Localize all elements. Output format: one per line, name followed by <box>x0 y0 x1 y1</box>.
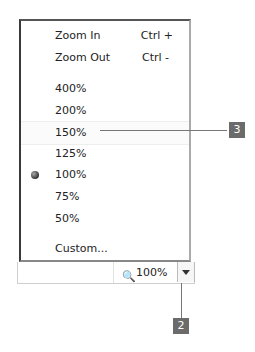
zoom-value: 100% <box>136 262 167 283</box>
radio-bullet-icon <box>31 171 39 179</box>
menu-item-200[interactable]: 200% <box>21 100 189 122</box>
menu-item-125[interactable]: 125% <box>21 143 189 165</box>
menu-item-label: Zoom In <box>55 25 100 47</box>
menu-item-label: Custom... <box>55 238 108 260</box>
callout-line-3 <box>100 130 227 131</box>
menu-item-shortcut: Ctrl + <box>141 25 173 47</box>
menu-item-label: 75% <box>55 186 79 208</box>
menu-item-zoom-out[interactable]: Zoom Out Ctrl - <box>21 47 189 69</box>
menu-item-label: 100% <box>55 164 86 186</box>
chevron-down-icon <box>182 270 190 275</box>
menu-item-label: 50% <box>55 208 79 230</box>
callout-badge-3: 3 <box>229 122 245 138</box>
menu-item-custom[interactable]: Custom... <box>21 238 189 260</box>
menu-item-shortcut: Ctrl - <box>142 47 169 69</box>
menu-item-zoom-in[interactable]: Zoom In Ctrl + <box>21 25 189 47</box>
menu-item-label: 125% <box>55 143 86 165</box>
menu-item-75[interactable]: 75% <box>21 186 189 208</box>
menu-item-50[interactable]: 50% <box>21 208 189 230</box>
magnifier-plus-icon: 🔍 <box>122 266 136 287</box>
menu-item-400[interactable]: 400% <box>21 78 189 100</box>
menu-item-150[interactable]: 150% <box>21 121 189 145</box>
menu-item-label: 150% <box>55 122 86 144</box>
menu-item-label: 200% <box>55 100 86 122</box>
zoom-dropdown-button[interactable] <box>177 262 195 282</box>
callout-line-2 <box>181 283 182 318</box>
callout-badge-2: 2 <box>173 318 189 334</box>
zoom-context-menu: Zoom In Ctrl + Zoom Out Ctrl - 400% 200%… <box>19 19 191 262</box>
menu-item-100[interactable]: 100% <box>21 164 189 186</box>
menu-item-label: Zoom Out <box>55 47 110 69</box>
zoom-level-button[interactable]: 🔍 100% <box>113 262 177 283</box>
menu-item-label: 400% <box>55 78 86 100</box>
status-bar: 🔍 100% <box>17 262 195 284</box>
